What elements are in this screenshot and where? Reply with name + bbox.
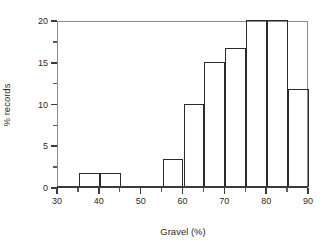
y-tick-label: 5	[43, 142, 48, 151]
x-minor-tick	[286, 188, 287, 192]
plot-area	[57, 21, 308, 188]
x-tick-label: 60	[177, 197, 187, 206]
x-minor-tick	[203, 188, 204, 192]
x-tick-label: 70	[219, 197, 229, 206]
x-tick	[140, 188, 142, 194]
histogram-bar	[163, 159, 184, 187]
histogram-bar	[225, 48, 246, 187]
histogram-bar	[204, 62, 225, 187]
y-tick-label: 20	[38, 17, 48, 26]
x-tick-label: 40	[94, 197, 104, 206]
histogram-bar	[288, 89, 309, 187]
histogram-bar	[79, 173, 100, 187]
x-tick-label: 80	[261, 197, 271, 206]
bars-layer	[58, 22, 307, 187]
x-tick-label: 30	[52, 197, 62, 206]
histogram-bar	[100, 173, 121, 187]
x-minor-tick	[161, 188, 162, 192]
x-tick	[56, 188, 58, 194]
y-axis-label: % records	[1, 84, 12, 127]
x-minor-tick	[77, 188, 78, 192]
x-minor-tick	[119, 188, 120, 192]
x-axis: 30405060708090	[0, 188, 335, 228]
y-tick-label: 10	[38, 100, 48, 109]
x-tick	[182, 188, 184, 194]
x-axis-label: Gravel (%)	[160, 226, 205, 237]
x-tick-label: 90	[303, 197, 313, 206]
x-tick	[307, 188, 309, 194]
x-tick	[224, 188, 226, 194]
histogram-figure: 05101520 30405060708090 % records Gravel…	[0, 0, 335, 250]
x-minor-tick	[245, 188, 246, 192]
histogram-bar	[267, 20, 288, 187]
histogram-bar	[184, 104, 205, 188]
histogram-bar	[246, 20, 267, 187]
x-tick-label: 50	[136, 197, 146, 206]
x-tick	[98, 188, 100, 194]
x-tick	[265, 188, 267, 194]
y-tick-label: 15	[38, 58, 48, 67]
